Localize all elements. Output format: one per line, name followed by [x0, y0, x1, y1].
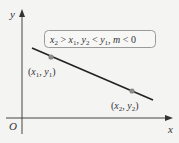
point-1-label: (x1, y1): [28, 66, 56, 79]
origin-label: O: [9, 120, 17, 132]
diagram-canvas: y x O x2 > x1, y2 < y1, m < 0 (x1, y1) (…: [0, 0, 179, 143]
y-axis: [19, 9, 25, 134]
x-axis-arrow-icon: [165, 115, 173, 121]
y-axis-label: y: [9, 8, 15, 20]
condition-box: x2 > x1, y2 < y1, m < 0: [45, 31, 156, 48]
slope-diagram: y x O x2 > x1, y2 < y1, m < 0 (x1, y1) (…: [0, 0, 179, 143]
point-2-label: (x2, y2): [111, 100, 139, 113]
x-axis-label: x: [167, 123, 173, 135]
y-axis-arrow-icon: [19, 9, 25, 17]
point-1-marker: [48, 54, 53, 59]
point-2-marker: [129, 88, 134, 93]
x-axis: [6, 115, 173, 121]
